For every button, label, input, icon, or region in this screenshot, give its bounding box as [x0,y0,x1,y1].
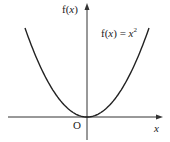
x-axis-arrow-icon [156,115,163,120]
x-axis-label: x [154,123,159,134]
parabola-figure [0,0,170,142]
function-annotation: f(x) = x2 [101,27,137,39]
y-axis-label: f(x) [62,4,78,15]
origin-label: O [73,120,81,131]
y-axis-arrow-icon [85,3,90,10]
